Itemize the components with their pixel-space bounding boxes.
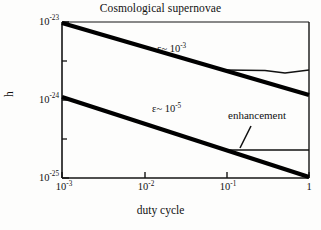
axis-frame [62,22,309,178]
plot-area [0,0,321,230]
enhancement-leader-line [240,126,251,148]
series-epsilon-1e-5 [62,97,309,177]
chart-figure: Cosmological supernovae h duty cycle 10-… [0,0,321,230]
series-epsilon-1e-3 [62,23,309,95]
x-axis-ticks [62,172,309,178]
